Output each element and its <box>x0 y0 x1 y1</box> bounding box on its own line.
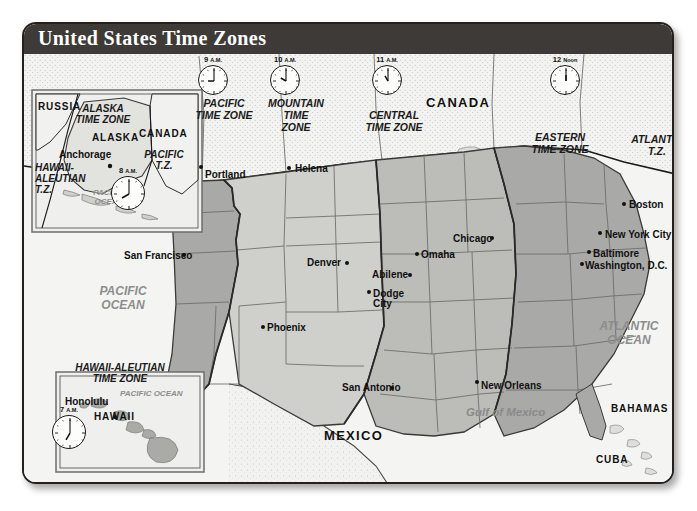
mountain-clock-time: 10 <box>274 55 282 64</box>
alaska-inset-alaska: ALASKA <box>92 133 139 143</box>
alaska-inset-canada: CANADA <box>139 129 188 139</box>
zone-label-pacific: PACIFICTIME ZONE <box>186 98 262 122</box>
alaska-clock-suffix: A.M. <box>125 168 137 174</box>
alaska-clock-face <box>111 176 145 210</box>
city-new-york-city-dot <box>598 231 602 235</box>
alaska-inset-pacific-tz: PACIFICT.Z. <box>144 149 184 171</box>
city-chicago: Chicago <box>453 234 492 244</box>
hawaii-clock-label: 7 A.M. <box>60 405 78 414</box>
city-helena: Helena <box>295 164 328 174</box>
pacific-clock-time: 9 <box>204 55 208 64</box>
alaska-clock-label: 8 A.M. <box>119 166 137 175</box>
map-card: United States Time Zones <box>22 22 674 484</box>
alaska-inset-title: ALASKATIME ZONE <box>67 103 139 125</box>
city-baltimore: Baltimore <box>593 249 639 259</box>
central-clock-suffix: A.M. <box>386 57 398 63</box>
ocean-label-gulf: Gulf of Mexico <box>466 407 545 419</box>
eastern-clock-suffix: Noon <box>563 57 577 63</box>
hawaii-clock-face <box>52 415 86 449</box>
mountain-clock-label: 10 A.M. <box>274 55 296 64</box>
mountain-clock-suffix: A.M. <box>284 57 296 63</box>
city-new-york-city: New York City <box>605 230 671 240</box>
city-washington-dc: Washington, D.C. <box>585 261 667 271</box>
city-portland-dot <box>199 165 203 169</box>
zone-label-central: CENTRALTIME ZONE <box>348 110 440 134</box>
city-new-orleans-dot <box>475 380 479 384</box>
map-screenshot: United States Time Zones <box>0 0 697 511</box>
zone-label-mountain: MOUNTAINTIMEZONE <box>260 98 332 133</box>
country-label-canada: CANADA <box>426 96 490 110</box>
city-baltimore-dot <box>587 250 591 254</box>
city-dodge-city: Dodge City <box>373 289 415 309</box>
city-san-antonio-dot <box>390 386 394 390</box>
city-portland: Portland <box>205 170 246 180</box>
city-new-orleans: New Orleans <box>481 381 542 391</box>
pacific-clock-label: 9 A.M. <box>204 55 222 64</box>
hawaii-inset-hawaii: HAWAII <box>94 412 135 422</box>
alaska-inset-hawaii-tz: HAWAII-ALEUTIANT.Z. <box>35 162 81 195</box>
hawaii-clock-time: 7 <box>60 405 64 414</box>
zone-label-atlantic: ATLANTICT.Z. <box>630 134 674 158</box>
city-san-francisco-dot <box>182 253 186 257</box>
eastern-clock-face <box>550 65 580 95</box>
city-boston-dot <box>622 202 626 206</box>
ocean-label-atlantic: ATLANTICOCEAN <box>588 320 670 348</box>
central-clock-label: 11 A.M. <box>376 55 398 64</box>
city-chicago-dot <box>490 236 494 240</box>
city-phoenix: Phoenix <box>267 323 306 333</box>
ocean-label-pacific: PACIFICOCEAN <box>83 285 163 313</box>
country-label-cuba: CUBA <box>596 455 629 465</box>
city-phoenix-dot <box>261 325 265 329</box>
central-clock-time: 11 <box>376 55 384 64</box>
central-clock-face <box>372 65 402 95</box>
map-body: PortlandHelenaSan FranciscoDenverAbilene… <box>24 54 672 484</box>
mountain-clock-face <box>270 65 300 95</box>
city-abilene: Abilene <box>372 270 408 280</box>
country-label-mexico: MEXICO <box>324 429 383 443</box>
city-denver-dot <box>345 261 349 265</box>
city-boston: Boston <box>629 200 663 210</box>
city-denver: Denver <box>307 258 341 268</box>
alaska-clock-time: 8 <box>119 166 123 175</box>
city-abilene-dot <box>408 273 412 277</box>
country-label-bahamas: BAHAMAS <box>611 404 668 414</box>
title-banner: United States Time Zones <box>24 24 672 54</box>
hawaii-inset-ocean: PACIFIC OCEAN <box>120 389 183 398</box>
hawaii-clock-suffix: A.M. <box>66 407 78 413</box>
pacific-clock-suffix: A.M. <box>210 57 222 63</box>
city-washington-dc-dot <box>580 262 584 266</box>
eastern-clock-time: 12 <box>553 55 561 64</box>
hawaii-inset-title: HAWAII-ALEUTIANTIME ZONE <box>60 362 180 384</box>
city-helena-dot <box>287 166 291 170</box>
zone-label-eastern: EASTERNTIME ZONE <box>518 132 602 156</box>
page-title: United States Time Zones <box>38 27 266 50</box>
city-dodge-city-dot <box>367 290 371 294</box>
city-omaha-dot <box>415 252 419 256</box>
alaska-inset-anchorage: Anchorage <box>59 150 111 160</box>
city-omaha: Omaha <box>421 250 455 260</box>
pacific-clock-face <box>198 65 228 95</box>
eastern-clock-label: 12 Noon <box>553 55 578 64</box>
